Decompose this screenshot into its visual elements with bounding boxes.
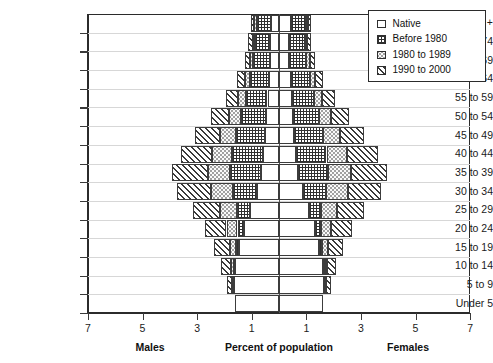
bar-segment [270,33,279,50]
bar-segment [271,15,279,32]
y-axis-tick [80,126,88,127]
bar-segment [234,276,279,293]
y-axis-label: Under 5 [419,298,493,309]
x-axis-tick-label: 7 [458,322,482,334]
bar-segment [279,52,289,69]
bar-segment [244,220,280,237]
bar-segment [347,146,378,163]
legend-label: Before 1980 [393,34,448,44]
bar-segment [328,164,351,181]
legend-item: Native [377,16,479,32]
bar-segment [279,33,289,50]
bar-segment [230,164,261,181]
population-pyramid-chart: 75 +70 to 7465 to 6960 to 6455 to 5950 t… [0,0,493,363]
bar-segment [268,90,280,107]
bar-segment [250,52,253,69]
bar-segment [314,90,322,107]
bar-segment [212,146,232,163]
bar-segment [279,127,294,144]
bar-segment [205,220,227,237]
bar-segment [279,220,315,237]
bar-segment [289,52,306,69]
y-axis-tick [80,201,88,202]
bar-segment [211,183,233,200]
y-axis-label: 25 to 29 [419,204,493,215]
bar-segment [250,202,279,219]
bar-segment [232,276,234,293]
y-axis-label: 30 to 34 [419,186,493,197]
bar-segment [177,183,210,200]
bar-segment [323,127,339,144]
bar-segment [321,220,331,237]
legend-item: Before 1980 [377,32,479,48]
bar-segment [239,239,279,256]
bar-segment [298,164,328,181]
bar-segment [250,71,269,88]
legend-item: 1980 to 1989 [377,47,479,63]
x-axis-tick-label: 1 [240,322,264,334]
x-axis-title: Percent of population [212,341,346,353]
y-axis-label: 50 to 54 [419,111,493,122]
y-axis-tick [80,33,88,34]
bar-segment [211,108,230,125]
bar-segment [220,127,236,144]
bar-segment [291,15,307,32]
bar-segment [248,33,252,50]
bar-segment [331,220,352,237]
bar-segment [214,239,230,256]
bar-segment [308,15,311,32]
x-axis-tick [88,313,89,320]
bar-segment [279,90,292,107]
bar-segment [226,90,239,107]
bar-segment [327,258,336,275]
bar-segment [322,90,335,107]
bar-segment [236,239,239,256]
bar-segment [279,258,323,275]
bar-segment [237,71,245,88]
x-axis-tick-label: 5 [131,322,155,334]
bar-segment [221,258,231,275]
legend: Native Before 1980 1980 to 1989 1990 to … [368,10,486,82]
x-axis-tick [470,313,471,320]
bar-segment [279,202,309,219]
x-axis-tick-label: 7 [76,322,100,334]
x-axis-tick-label: 5 [404,322,428,334]
bar-segment [220,202,237,219]
bar-segment [279,239,319,256]
native-swatch [377,20,386,29]
bar-segment [307,33,311,50]
bar-segment [253,52,269,69]
bar-segment [327,146,347,163]
bar-segment [227,220,238,237]
bar-segment [229,108,241,125]
bar-segment [245,71,250,88]
bar-segment [328,239,343,256]
bar-segment [293,108,319,125]
bar-segment [296,146,327,163]
bar-segment [254,15,256,32]
bar-segment [321,202,337,219]
bar-segment [340,127,365,144]
bar-segment [234,258,236,275]
y-axis-tick [80,313,88,314]
bar-segment [246,90,268,107]
bar-segment [255,33,270,50]
bar-segment [251,15,254,32]
x-axis-tick [416,313,417,320]
bar-segment [309,202,322,219]
bar-segment [237,202,250,219]
bar-segment [279,295,323,312]
y-axis-tick [80,276,88,277]
y-axis-label: 55 to 59 [419,92,493,103]
x-axis-tick [361,313,362,320]
bar-segment [257,183,279,200]
bar-segment [236,127,265,144]
bar-segment [279,108,293,125]
before1980-swatch [377,35,386,44]
bar-segment [172,164,208,181]
females-caption: Females [346,341,470,353]
bar-segment [195,127,220,144]
bar-segment [241,108,267,125]
bar-segment [253,33,256,50]
bar-segment [279,71,291,88]
